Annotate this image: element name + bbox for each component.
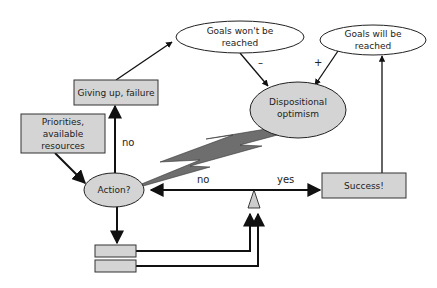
edge-priorities-to-action [55,153,85,183]
priorities-line3: resources [41,141,85,151]
node-success: Success! [322,173,406,198]
goals-wont-line1: Goals won't be [207,26,274,36]
node-lower-box-2 [95,260,136,272]
edge-label-plus: + [314,57,322,68]
goals-will-line2: reached [355,41,391,51]
diagram-canvas: Goals won't be reached Goals will be rea… [0,0,437,288]
optimism-line1: Dispositional [269,97,327,107]
edge-giving-up-to-goals-wont [116,42,172,80]
priorities-line1: Priorities, [42,117,84,127]
success-label: Success! [344,181,384,191]
node-action: Action? [84,173,144,207]
node-goals-will-be-reached: Goals will be reached [320,25,426,55]
node-goals-wont-be-reached: Goals won't be reached [176,21,304,53]
edge-lower-box-1-to-junction [136,214,250,251]
priorities-line2: available [43,129,84,139]
node-priorities: Priorities, available resources [21,114,105,153]
goals-wont-line2: reached [222,38,258,48]
node-dispositional-optimism: Dispositional optimism [250,82,346,138]
edge-label-yes: yes [277,174,294,185]
edge-label-no-left: no [197,174,209,185]
node-lower-box-1 [95,245,136,257]
edge-goals-wont-to-optimism [240,53,268,86]
node-giving-up-failure: Giving up, failure [74,80,158,105]
giving-up-label: Giving up, failure [77,88,155,98]
goals-will-line1: Goals will be [344,29,401,39]
junction-triangle [248,190,260,208]
action-label: Action? [98,185,131,195]
edge-lower-box-2-to-junction [136,214,258,266]
optimism-line2: optimism [277,109,319,119]
edge-label-minus: – [258,57,263,68]
edge-label-no-up: no [122,137,134,148]
